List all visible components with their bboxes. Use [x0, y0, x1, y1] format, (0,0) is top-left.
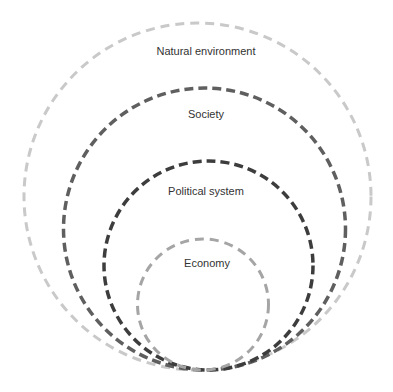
society-label: Society	[188, 108, 225, 120]
political-system-label: Political system	[168, 185, 244, 197]
diagram-canvas: Natural environmentSocietyPolitical syst…	[0, 0, 393, 392]
economy-label: Economy	[184, 257, 230, 269]
society-ring	[64, 88, 346, 370]
natural-environment-label: Natural environment	[156, 45, 255, 57]
nested-systems-diagram: Natural environmentSocietyPolitical syst…	[0, 0, 393, 392]
